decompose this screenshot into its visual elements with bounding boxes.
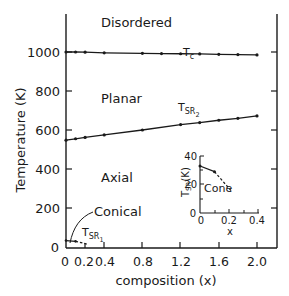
svg-text:0: 0 [190, 208, 196, 219]
y-axis-label: Temperature (K) [13, 87, 28, 193]
svg-text:40: 40 [184, 151, 197, 162]
data-point [198, 52, 201, 55]
svg-text:0: 0 [198, 215, 204, 226]
svg-text:400: 400 [35, 162, 60, 177]
inset-y-label: TSR(K) [180, 167, 193, 198]
inset-chart: 40 20 0 0 0.2 0.4 x TSR(K) Cone [180, 151, 265, 237]
data-point [141, 128, 144, 131]
data-point [74, 240, 77, 243]
data-point [255, 53, 258, 56]
data-point [64, 139, 67, 142]
data-point [217, 119, 220, 122]
region-axial: Axial [101, 170, 133, 185]
data-point [84, 51, 87, 54]
y-ticks [66, 52, 277, 208]
svg-text:1.6: 1.6 [209, 254, 229, 269]
data-point [179, 123, 182, 126]
svg-text:0.2: 0.2 [74, 254, 94, 269]
svg-text:0.4: 0.4 [95, 254, 115, 269]
data-point [64, 50, 67, 53]
tsr1-label: TSR1 [81, 226, 104, 244]
data-point [236, 117, 239, 120]
data-point [141, 52, 144, 55]
tc-label: Tc [182, 46, 194, 61]
data-point [103, 133, 106, 136]
svg-text:1000: 1000 [27, 45, 60, 60]
svg-text:2.0: 2.0 [247, 254, 267, 269]
region-disordered: Disordered [101, 15, 172, 30]
data-point [255, 114, 258, 117]
data-point [65, 239, 68, 242]
svg-text:800: 800 [35, 84, 60, 99]
data-point [84, 136, 87, 139]
data-point [213, 170, 216, 173]
region-planar: Planar [101, 91, 143, 106]
phase-diagram: 1000 800 600 400 200 0 0 0.2 0.4 0.8 1.2… [0, 0, 289, 296]
tsr2-label: TSR2 [177, 101, 200, 119]
data-point [179, 52, 182, 55]
svg-text:0.8: 0.8 [133, 254, 153, 269]
data-point [160, 52, 163, 55]
inset-x-label: x [227, 226, 233, 237]
data-point [103, 51, 106, 54]
data-point [199, 164, 202, 167]
data-point [236, 53, 239, 56]
svg-text:0: 0 [51, 240, 59, 255]
svg-text:1.2: 1.2 [171, 254, 191, 269]
data-point [74, 137, 77, 140]
data-point [198, 121, 201, 124]
svg-text:0: 0 [61, 254, 69, 269]
region-conical: Conical [94, 204, 142, 219]
y-tick-labels: 1000 800 600 400 200 0 [27, 45, 60, 255]
svg-text:0.4: 0.4 [249, 215, 265, 226]
svg-text:600: 600 [35, 123, 60, 138]
svg-text:0.2: 0.2 [221, 215, 237, 226]
x-tick-labels: 0 0.2 0.4 0.8 1.2 1.6 2.0 [61, 254, 267, 269]
data-point [74, 50, 77, 53]
data-point [217, 53, 220, 56]
svg-text:200: 200 [35, 201, 60, 216]
x-ticks [85, 242, 257, 248]
inset-region-cone: Cone [204, 182, 232, 195]
x-axis-label: composition (x) [115, 273, 216, 288]
